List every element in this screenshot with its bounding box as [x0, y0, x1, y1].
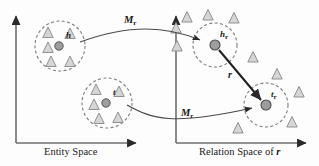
tail-projected-node: [261, 100, 271, 110]
transr-projection-figure: h t hr tr Mr Mr r Entity Space Relation …: [0, 0, 319, 166]
triangle-marker: [89, 99, 99, 110]
triangle-marker: [272, 69, 282, 80]
head-projection-curve: [80, 29, 200, 42]
triangle-marker: [94, 113, 104, 124]
right-axis-label: Relation Space of r: [199, 147, 280, 158]
left-axis-label: Entity Space: [44, 147, 97, 158]
triangle-marker: [182, 12, 192, 23]
tail-projected-label: tr: [271, 90, 277, 99]
figure-canvas: [0, 0, 319, 166]
tail-entity-cluster: [82, 78, 132, 128]
triangle-marker: [229, 13, 239, 24]
triangle-marker: [287, 117, 297, 128]
head-entity-label: h: [66, 31, 71, 40]
head-projected-label: hr: [220, 30, 228, 39]
triangle-marker: [43, 27, 53, 38]
tail-projected-cluster: [244, 83, 288, 127]
tail-entity-label: t: [113, 88, 116, 97]
triangle-marker: [43, 42, 53, 53]
triangle-marker: [294, 87, 304, 98]
relation-vector-label: r: [228, 70, 232, 80]
head-entity-node: [55, 42, 63, 50]
triangle-marker: [248, 52, 258, 63]
projection-matrix-bottom-label: Mr: [181, 108, 193, 119]
head-projected-node: [210, 40, 220, 50]
tail-entity-node: [102, 99, 110, 107]
projection-matrix-top-label: Mr: [124, 15, 136, 26]
head-entity-cluster: [35, 21, 85, 71]
triangle-marker: [172, 41, 182, 52]
triangle-marker: [233, 123, 243, 134]
head-projected-cluster: [193, 23, 237, 67]
triangle-marker: [113, 112, 123, 123]
right-panel-axes: [176, 16, 306, 143]
triangle-marker: [46, 56, 56, 67]
triangle-marker: [203, 10, 213, 21]
triangle-marker: [91, 84, 101, 95]
triangle-marker: [65, 56, 75, 67]
left-panel-axes: [16, 16, 136, 143]
